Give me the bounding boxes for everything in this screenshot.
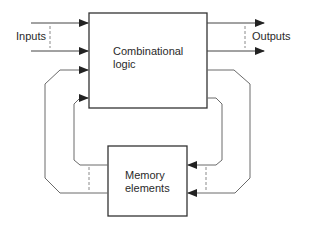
- combinational-line1: Combinational: [113, 45, 183, 58]
- feedback-to-combinational: [45, 70, 108, 193]
- inputs-label: Inputs: [16, 30, 46, 43]
- memory-elements-label: Memory elements: [125, 169, 170, 195]
- memory-line1: Memory: [125, 169, 170, 182]
- combinational-line2: logic: [113, 58, 183, 71]
- combinational-logic-label: Combinational logic: [113, 45, 183, 71]
- memory-line2: elements: [125, 182, 170, 195]
- outputs-label: Outputs: [252, 30, 291, 43]
- feedback-to-memory: [188, 70, 250, 193]
